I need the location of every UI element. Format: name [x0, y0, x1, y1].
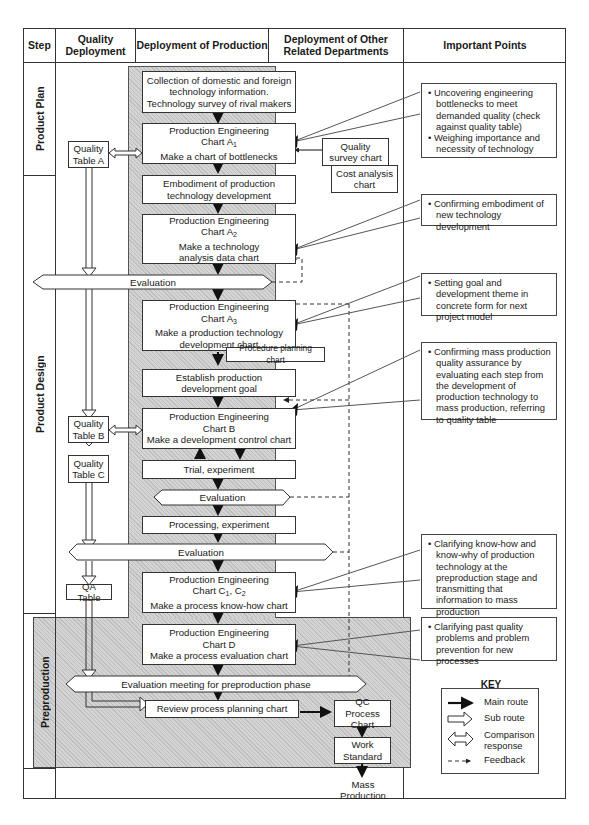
quality-table-b[interactable]: Quality Table B — [68, 416, 109, 443]
important-point-3: • Setting goal and development theme in … — [421, 273, 557, 316]
pe-chart-d-box[interactable]: Production Engineering Chart D Make a pr… — [142, 624, 296, 665]
quality-table-c-label: Quality Table C — [72, 458, 105, 481]
key-legend: Main route Sub route Comparison response… — [441, 688, 539, 774]
trial-experiment-box[interactable]: Trial, experiment — [142, 460, 296, 479]
evaluation-1[interactable]: Evaluation — [43, 275, 263, 289]
procedure-planning-chart[interactable]: Procedure planning chart — [226, 347, 325, 362]
comparison-arrows — [109, 148, 142, 435]
qc-process-chart[interactable]: QC Process Chart — [334, 700, 391, 727]
pe-a1-chart: Chart A1 — [201, 136, 237, 151]
important-point-4: • Confirming mass production quality ass… — [421, 342, 557, 420]
mass-production-label: Mass Production — [330, 779, 396, 801]
pe-c-task: Make a process know-how chart — [150, 600, 288, 612]
processing-label: Processing, experiment — [169, 519, 269, 531]
procedure-planning-label: Procedure planning chart — [230, 343, 321, 366]
collection-box[interactable]: Collection of domestic and foreign techn… — [142, 71, 296, 113]
pe-chart-a1-box[interactable]: Production Engineering Chart A1 Make a c… — [142, 123, 296, 164]
quality-table-b-label: Quality Table B — [72, 418, 105, 441]
important-point-6: • Clarifying past quality problems and p… — [421, 617, 557, 661]
pe-chart-c-box[interactable]: Production Engineering Chart C1, C2 Make… — [142, 572, 296, 613]
pe-c-chart-name: Chart C — [192, 585, 225, 596]
point-1-bullet-2: Weighing importance and necessity of tec… — [434, 132, 540, 154]
pe-a2-chart: Chart A2 — [201, 226, 237, 241]
pe-d-title: Production Engineering — [169, 627, 269, 639]
quality-table-a-label: Quality Table A — [72, 143, 105, 166]
key-comparison-response: Comparison response — [484, 729, 538, 751]
evaluation-3[interactable]: Evaluation — [77, 544, 325, 560]
pe-chart-b-box[interactable]: Production Engineering Chart B Make a de… — [142, 408, 296, 449]
pe-d-task: Make a process evaluation chart — [150, 650, 288, 662]
bullet: • Clarifying past quality problems and p… — [428, 621, 551, 666]
qc-process-label: QC Process Chart — [340, 696, 385, 731]
pe-a2-task: Make a technology analysis data chart — [162, 241, 277, 264]
embodiment-box[interactable]: Embodiment of production technology deve… — [142, 175, 296, 204]
bullet: • Clarifying know-how and know-why of pr… — [428, 538, 551, 617]
important-point-5: • Clarifying know-how and know-why of pr… — [421, 534, 557, 609]
pe-a1-task: Make a chart of bottlenecks — [160, 151, 277, 163]
important-point-1: • Uncovering engineering bottlenecks to … — [421, 83, 557, 158]
pe-chart-a2-box[interactable]: Production Engineering Chart A2 Make a t… — [142, 214, 296, 264]
pe-a1-title: Production Engineering — [169, 125, 269, 137]
key-feedback: Feedback — [484, 754, 525, 765]
bullet: • Confirming embodiment of new technolog… — [428, 198, 551, 232]
pe-b-title: Production Engineering — [169, 411, 269, 423]
bullet: • Uncovering engineering bottlenecks to … — [428, 87, 551, 132]
evaluation-2-label: Evaluation — [200, 492, 246, 503]
evaluation-1-label: Evaluation — [130, 277, 176, 288]
work-standard[interactable]: Work Standard — [334, 737, 391, 764]
pe-d-chart: Chart D — [202, 639, 235, 651]
establish-goal-label: Establish production development goal — [164, 372, 274, 395]
qa-table[interactable]: QA Table — [66, 584, 112, 600]
key-main-route: Main route — [484, 696, 528, 707]
pe-a3-chart: Chart A3 — [201, 313, 237, 328]
embodiment-label: Embodiment of production technology deve… — [159, 178, 279, 201]
key-sub-route: Sub route — [484, 712, 525, 723]
sub-route-symbol — [448, 712, 472, 726]
pe-a3-title: Production Engineering — [169, 301, 269, 313]
pe-a2-chart-name: Chart A — [201, 226, 233, 237]
quality-table-c[interactable]: Quality Table C — [68, 455, 109, 483]
pe-c-mid: , C — [229, 585, 241, 596]
pe-c-title: Production Engineering — [169, 574, 269, 586]
pe-c-chart: Chart C1, C2 — [192, 585, 245, 600]
trial-label: Trial, experiment — [183, 464, 254, 476]
quality-survey-chart[interactable]: Quality survey chart — [322, 138, 389, 166]
pe-a2-subscript: 2 — [233, 231, 237, 238]
pe-a3-chart-name: Chart A — [201, 313, 233, 324]
processing-experiment-box[interactable]: Processing, experiment — [142, 516, 296, 534]
establish-goal-box[interactable]: Establish production development goal — [142, 369, 296, 397]
review-process-planning-box[interactable]: Review process planning chart — [145, 700, 299, 718]
pe-c-subscript-2: 2 — [242, 590, 246, 597]
important-point-2: • Confirming embodiment of new technolog… — [421, 194, 557, 226]
evaluation-3-label: Evaluation — [178, 547, 224, 558]
collection-label: Collection of domestic and foreign techn… — [146, 75, 292, 110]
point-6-bullet-1: Clarifying past quality problems and pro… — [434, 621, 529, 666]
point-1-bullet-1: Uncovering engineering bottlenecks to me… — [434, 87, 540, 132]
point-3-bullet-1: Setting goal and development theme in co… — [434, 277, 528, 322]
cost-analysis-label: Cost analysis chart — [336, 168, 394, 191]
point-4-bullet-1: Confirming mass production quality assur… — [434, 346, 551, 425]
bullet: • Confirming mass production quality ass… — [428, 346, 551, 425]
evaluation-meeting-label: Evaluation meeting for preproduction pha… — [121, 679, 311, 690]
pe-a2-title: Production Engineering — [169, 215, 269, 227]
quality-table-a[interactable]: Quality Table A — [68, 141, 109, 168]
quality-survey-label: Quality survey chart — [326, 141, 385, 164]
qa-table-label: QA Table — [70, 581, 108, 604]
work-standard-label: Work Standard — [340, 739, 385, 762]
bullet: • Weighing importance and necessity of t… — [428, 132, 551, 155]
pe-b-chart: Chart B — [203, 423, 236, 435]
review-label: Review process planning chart — [157, 703, 288, 715]
evaluation-2[interactable]: Evaluation — [162, 490, 283, 505]
pe-a1-subscript: 1 — [233, 141, 237, 148]
evaluation-meeting[interactable]: Evaluation meeting for preproduction pha… — [75, 676, 357, 692]
point-2-bullet-1: Confirming embodiment of new technology … — [434, 198, 544, 232]
bullet: • Setting goal and development theme in … — [428, 277, 551, 322]
pe-a3-subscript: 3 — [233, 318, 237, 325]
point-5-bullet-1: Clarifying know-how and know-why of prod… — [434, 538, 537, 617]
pe-b-task: Make a development control chart — [147, 434, 292, 446]
pe-a1-chart-name: Chart A — [201, 136, 233, 147]
comparison-response-symbol — [448, 732, 473, 746]
cost-analysis-chart[interactable]: Cost analysis chart — [331, 165, 398, 193]
